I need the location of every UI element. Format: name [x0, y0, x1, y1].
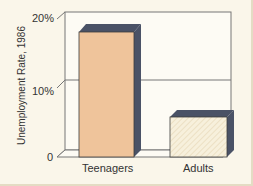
chart-frame: Unemployment Rate, 1986 20% 10% 0 [0, 0, 253, 186]
x-label-adults: Adults [183, 162, 214, 174]
page-edge [251, 0, 253, 186]
plot-area [0, 0, 253, 186]
bar-teenagers [79, 24, 141, 157]
bar-adults [170, 110, 234, 157]
x-label-teenagers: Teenagers [82, 162, 133, 174]
page-edge-bottom [0, 184, 253, 186]
